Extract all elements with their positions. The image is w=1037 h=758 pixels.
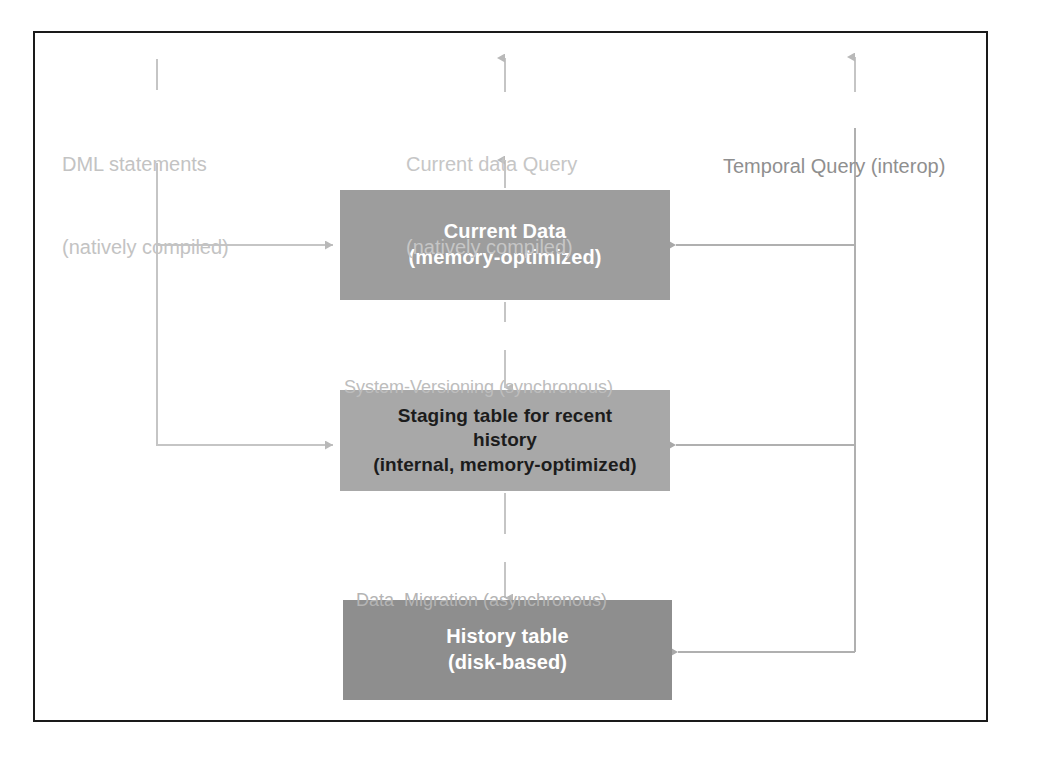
dml-statements-line-2: (natively compiled) [62, 234, 229, 262]
system-versioning-text: System-Versioning (synchronous) [344, 375, 613, 400]
data-migration-label: Data Migration (asynchronous) [356, 538, 607, 662]
dml-statements-label: DML statements (natively compiled) [62, 96, 229, 317]
staging-table-line-3: (internal, memory-optimized) [373, 453, 637, 477]
current-data-query-line-1: Current data Query [406, 151, 577, 179]
system-versioning-label: System-Versioning (synchronous) [344, 325, 613, 449]
diagram-canvas: Current Data (memory-optimized) Staging … [0, 0, 1037, 758]
temporal-query-label: Temporal Query (interop) [723, 98, 945, 236]
data-migration-text: Data Migration (asynchronous) [356, 588, 607, 613]
current-data-query-line-2: (natively compiled) [406, 234, 577, 262]
temporal-query-line-1: Temporal Query (interop) [723, 153, 945, 181]
current-data-query-label: Current data Query (natively compiled) [406, 96, 577, 317]
dml-statements-line-1: DML statements [62, 151, 229, 179]
